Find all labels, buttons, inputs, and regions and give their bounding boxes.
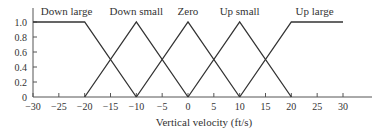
series-label: Up small [220, 5, 260, 17]
curve-up-large [240, 22, 343, 97]
x-tick-label: 25 [312, 101, 322, 112]
y-tick-label: 0.4 [15, 62, 28, 73]
y-ticks: 00.20.40.60.81.0 [15, 17, 38, 103]
x-tick-label: 5 [211, 101, 216, 112]
x-tick-label: −25 [51, 101, 67, 112]
series-label: Up large [296, 5, 334, 17]
y-tick-label: 1.0 [15, 17, 28, 28]
membership-curves [33, 22, 343, 97]
x-tick-label: −15 [103, 101, 119, 112]
x-tick-label: −5 [157, 101, 168, 112]
x-tick-label: 20 [286, 101, 296, 112]
curve-zero [136, 22, 239, 97]
series-label: Zero [178, 5, 199, 17]
x-tick-label: −30 [25, 101, 41, 112]
x-tick-label: 30 [338, 101, 348, 112]
curve-down-small [85, 22, 188, 97]
series-label: Down large [41, 5, 93, 17]
membership-chart: 00.20.40.60.81.0 −30−25−20−15−10−5051015… [0, 0, 381, 133]
series-labels: Down largeDown smallZeroUp smallUp large [41, 5, 334, 17]
y-tick-label: 0.2 [15, 77, 28, 88]
x-tick-label: −10 [129, 101, 145, 112]
series-label: Down small [110, 5, 163, 17]
x-axis-label: Vertical velocity (ft/s) [156, 116, 253, 129]
y-tick-label: 0.8 [15, 32, 28, 43]
x-tick-label: 10 [235, 101, 245, 112]
x-tick-label: −20 [77, 101, 93, 112]
y-tick-label: 0.6 [15, 47, 28, 58]
curve-down-large [33, 22, 136, 97]
x-tick-label: 0 [186, 101, 191, 112]
x-tick-label: 15 [261, 101, 271, 112]
curve-up-small [188, 22, 291, 97]
